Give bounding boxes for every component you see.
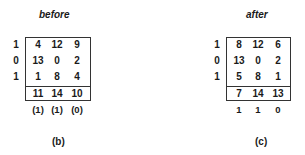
matrix-cell: 13	[28, 55, 48, 66]
row-label: 1	[11, 39, 21, 50]
matrix-cell: 5	[229, 71, 249, 82]
matrix-cell: 0	[248, 55, 268, 66]
matrix-cell: 9	[67, 39, 87, 50]
matrix-cell: 0	[47, 55, 67, 66]
matrix-cell: 8	[47, 71, 67, 82]
matrix-cell: 1	[28, 71, 48, 82]
row-label: 1	[212, 71, 222, 82]
bottom-label: (0)	[67, 104, 87, 115]
matrix-cell: 12	[248, 39, 268, 50]
row-label: 0	[212, 55, 222, 66]
row-label: 0	[11, 55, 21, 66]
row-label: 1	[212, 39, 222, 50]
matrix-cell: 4	[67, 71, 87, 82]
row-label: 1	[11, 71, 21, 82]
bottom-label: (1)	[28, 104, 48, 115]
matrix-cell: 1	[268, 71, 288, 82]
matrix-cell: 6	[268, 39, 288, 50]
matrix-cell: 4	[28, 39, 48, 50]
bottom-label: (1)	[47, 104, 67, 115]
matrix-cell: 2	[67, 55, 87, 66]
matrix-cell: 2	[268, 55, 288, 66]
matrix-cell: 8	[248, 71, 268, 82]
total-cell: 11	[28, 88, 48, 99]
total-cell: 14	[248, 88, 268, 99]
total-cell: 14	[47, 88, 67, 99]
total-cell: 10	[67, 88, 87, 99]
matrix-cell: 8	[229, 39, 249, 50]
panel-title: before	[39, 9, 70, 20]
panel-caption: (b)	[52, 136, 65, 147]
total-divider	[25, 86, 91, 87]
matrix-cell: 12	[47, 39, 67, 50]
bottom-label: 0	[268, 104, 288, 115]
total-cell: 13	[268, 88, 288, 99]
panel-caption: (c)	[255, 136, 267, 147]
total-divider	[226, 86, 291, 87]
total-cell: 7	[229, 88, 249, 99]
bottom-label: 1	[229, 104, 249, 115]
bottom-label: 1	[248, 104, 268, 115]
matrix-cell: 13	[229, 55, 249, 66]
panel-title: after	[246, 9, 268, 20]
